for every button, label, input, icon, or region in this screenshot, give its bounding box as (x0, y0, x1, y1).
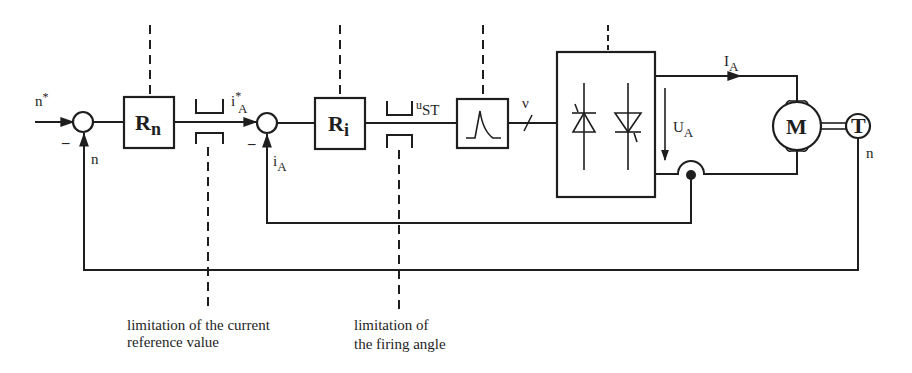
firing-angle-label: ν (522, 95, 529, 111)
armature-return-wire (655, 151, 797, 180)
svg-text:reference value: reference value (127, 334, 219, 350)
minus-sign: – (247, 135, 256, 151)
tachometer-block[interactable]: T (846, 113, 870, 138)
speed-feedback-line: n (84, 134, 858, 270)
current-summing-junction: – (247, 113, 277, 151)
firing-angle-limiter (387, 102, 412, 147)
speed-reference-input: n* (35, 90, 73, 122)
armature-current-wire: IA (655, 53, 797, 101)
armature-voltage-label: U (673, 119, 684, 135)
speed-feedback-label: n (91, 151, 99, 167)
motor-shaft (821, 123, 846, 129)
motor-block[interactable]: M (773, 101, 821, 151)
svg-text:n*: n* (35, 90, 49, 109)
current-sensor-dot (686, 170, 696, 180)
armature-voltage-arrow: UA (665, 88, 694, 160)
speed-controller-block[interactable]: Rn (124, 97, 174, 148)
motor-label: M (786, 114, 807, 139)
current-controller-block[interactable]: Ri (315, 98, 365, 149)
svg-text:iA: iA (273, 153, 287, 174)
firing-limit-annotation: limitation of the firing angle (354, 317, 446, 352)
svg-text:limitation of: limitation of (354, 317, 429, 333)
current-limit-annotation: limitation of the current reference valu… (127, 317, 271, 350)
svg-text:the firing angle: the firing angle (354, 336, 446, 352)
thyristor-converter-block[interactable] (557, 52, 655, 197)
tacho-speed-label: n (866, 145, 874, 161)
control-voltage-label: uST (416, 98, 440, 118)
speed-summing-junction: – (61, 112, 93, 150)
minus-sign: – (61, 134, 70, 150)
svg-text:IA: IA (724, 53, 739, 74)
firing-unit-block[interactable] (457, 99, 508, 148)
tachometer-label: T (851, 113, 866, 138)
svg-text:UA: UA (673, 119, 694, 140)
current-reference-label: i*A (231, 89, 248, 116)
svg-text:limitation of the current: limitation of the current (127, 317, 271, 333)
cascade-control-diagram: n* – n Rn i*A – iA (0, 0, 912, 373)
